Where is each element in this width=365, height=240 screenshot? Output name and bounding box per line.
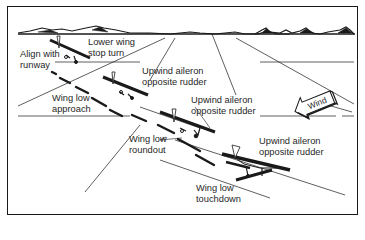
horizon-mountains-icon <box>18 26 355 34</box>
label-align-with-runway: Align with runway <box>20 49 60 71</box>
label-upwind-aileron-3: Upwind aileron opposite rudder <box>259 136 324 158</box>
wind-arrow-icon: Wind <box>291 86 339 123</box>
label-wing-low-approach: Wing low approach <box>52 93 91 115</box>
label-wing-low-touchdown: Wing low touchdown <box>196 183 241 205</box>
label-wing-low-roundout: Wing low roundout <box>129 134 167 156</box>
label-lower-wing-stop-turn: Lower wing stop turn <box>88 37 135 59</box>
label-upwind-aileron-1: Upwind aileron opposite rudder <box>142 66 207 88</box>
label-upwind-aileron-2: Upwind aileron opposite rudder <box>191 95 256 117</box>
